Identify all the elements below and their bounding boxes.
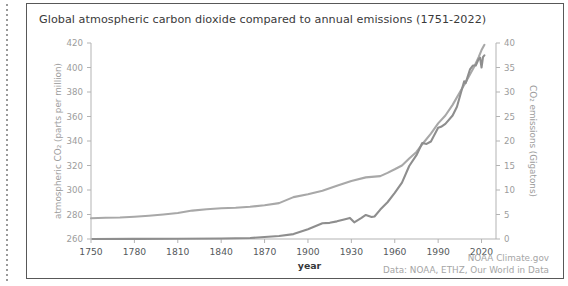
y-axis-right-tick-label: 30 <box>504 87 515 97</box>
y-axis-right-title: CO₂ emissions (Gigatons) <box>528 85 538 197</box>
y-axis-right-tick-label: 35 <box>504 63 515 73</box>
page-edge-dotted-rule <box>6 4 8 282</box>
x-axis-tick-label: 1780 <box>123 246 147 257</box>
plot-area: 2602803003203403603804004200510152025303… <box>27 4 565 280</box>
x-axis-tick-label: 1810 <box>166 246 190 257</box>
y-axis-left-tick-label: 400 <box>67 63 83 73</box>
y-axis-left-tick-label: 380 <box>67 87 83 97</box>
credit-noaa: NOAA Climate.gov <box>468 253 549 263</box>
y-axis-right-tick-label: 5 <box>504 210 509 220</box>
co2-concentration-line <box>91 45 484 218</box>
y-axis-left-title: atmospheric CO₂ (parts per million) <box>53 63 63 219</box>
y-axis-left-tick-label: 340 <box>67 136 83 146</box>
y-axis-right-tick-label: 0 <box>504 234 509 244</box>
x-axis-tick-label: 1930 <box>340 246 364 257</box>
x-axis-tick-label: 1900 <box>296 246 320 257</box>
x-axis-tick-label: 1870 <box>253 246 277 257</box>
x-axis-tick-label: 1750 <box>79 246 103 257</box>
x-axis-title: year <box>298 260 322 271</box>
x-axis-tick-label: 1840 <box>209 246 233 257</box>
credit-data-sources: Data: NOAA, ETHZ, Our World in Data <box>383 265 549 275</box>
y-axis-right-tick-label: 15 <box>504 161 515 171</box>
y-axis-left-tick-label: 360 <box>67 112 83 122</box>
screenshot-page: Global atmospheric carbon dioxide compar… <box>0 0 568 286</box>
emissions-line <box>92 55 484 239</box>
y-axis-right-tick-label: 10 <box>504 185 515 195</box>
x-axis-tick-label: 1990 <box>426 246 450 257</box>
x-axis-tick-label: 1960 <box>383 246 407 257</box>
y-axis-left-tick-label: 260 <box>67 234 83 244</box>
y-axis-left-tick-label: 300 <box>67 185 83 195</box>
chart-svg: 2602803003203403603804004200510152025303… <box>27 4 565 280</box>
y-axis-left-tick-label: 320 <box>67 161 83 171</box>
y-axis-right-tick-label: 40 <box>504 38 515 48</box>
y-axis-left-tick-label: 280 <box>67 210 83 220</box>
y-axis-right-tick-label: 20 <box>504 136 515 146</box>
y-axis-left-tick-label: 420 <box>67 38 83 48</box>
chart-card: Global atmospheric carbon dioxide compar… <box>26 3 564 279</box>
y-axis-right-tick-label: 25 <box>504 112 515 122</box>
